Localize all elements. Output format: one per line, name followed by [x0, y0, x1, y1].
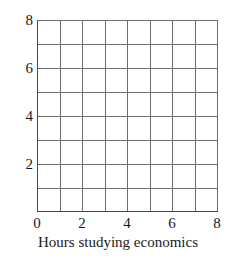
- y-tick-label-2: 2: [11, 157, 33, 172]
- x-axis-title: Hours studying economics: [0, 234, 236, 251]
- y-tick-label-6: 6: [11, 61, 33, 76]
- x-tick-label-8: 8: [206, 216, 228, 231]
- x-tick-label-4: 4: [116, 216, 138, 231]
- y-tick-label-4: 4: [11, 109, 33, 124]
- y-tick-label-8: 8: [11, 13, 33, 28]
- x-tick-label-2: 2: [71, 216, 93, 231]
- chart-figure: 8 6 4 2: [0, 0, 236, 266]
- grid-lines: [37, 20, 218, 212]
- plot-area: [37, 20, 218, 212]
- x-tick-label-6: 6: [161, 216, 183, 231]
- x-tick-label-0: 0: [26, 216, 48, 231]
